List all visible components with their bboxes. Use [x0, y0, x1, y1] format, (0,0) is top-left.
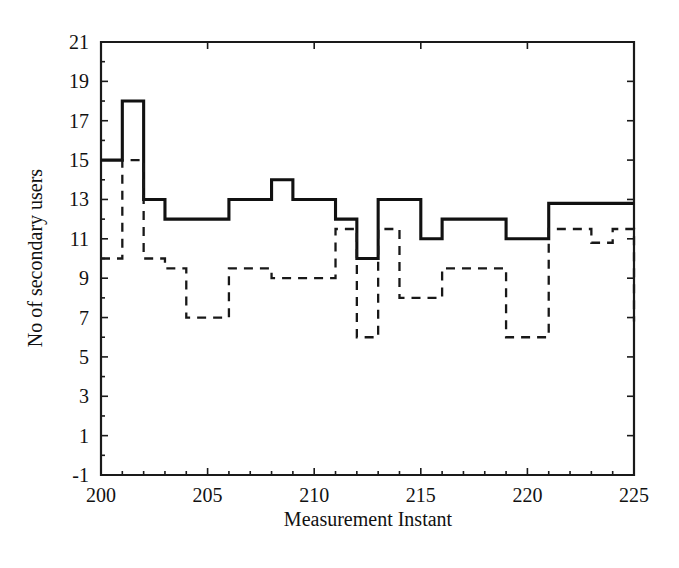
y-tick-label: 21 — [69, 31, 89, 53]
y-tick-label: 9 — [79, 267, 89, 289]
x-axis-title: Measurement Instant — [284, 508, 453, 530]
chart-figure: -113579111315171921200205210215220225 Me… — [0, 0, 679, 568]
series-line-dashed — [101, 160, 634, 337]
x-tick-label: 200 — [86, 484, 116, 506]
y-tick-label: 13 — [69, 188, 89, 210]
y-tick-label: 5 — [79, 346, 89, 368]
x-tick-label: 215 — [406, 484, 436, 506]
y-tick-label: 17 — [69, 110, 89, 132]
x-tick-label: 220 — [512, 484, 542, 506]
x-tick-label: 205 — [193, 484, 223, 506]
y-tick-label: 3 — [79, 385, 89, 407]
x-tick-label: 210 — [299, 484, 329, 506]
y-tick-label: 15 — [69, 149, 89, 171]
chart-svg: -113579111315171921200205210215220225 Me… — [0, 0, 679, 568]
y-tick-label: 7 — [79, 307, 89, 329]
y-tick-label: 1 — [79, 425, 89, 447]
x-tick-label: 225 — [619, 484, 649, 506]
y-tick-label: -1 — [72, 464, 89, 486]
data-series — [101, 101, 634, 337]
axis-tick-labels: -113579111315171921200205210215220225 — [69, 31, 649, 506]
y-tick-label: 19 — [69, 70, 89, 92]
y-axis-title: No of secondary users — [24, 169, 47, 347]
series-line-solid — [101, 101, 634, 258]
y-tick-label: 11 — [70, 228, 89, 250]
